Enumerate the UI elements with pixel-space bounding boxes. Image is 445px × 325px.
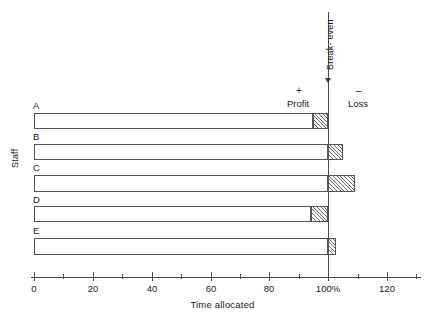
- x-tick-minor-70: [240, 274, 241, 279]
- x-tick-label-40: 40: [132, 284, 172, 294]
- bar-c-clear: [34, 175, 328, 192]
- x-tick-label-100: 100%: [308, 284, 348, 294]
- x-tick-40: [152, 272, 153, 281]
- x-tick-label-80: 80: [249, 284, 289, 294]
- bar-c-hatched: [328, 175, 355, 192]
- y-axis-title: Staff: [10, 149, 20, 168]
- x-tick-label-120: 120: [367, 284, 407, 294]
- x-tick-label-0: 0: [14, 284, 54, 294]
- x-tick-minor-110: [358, 274, 359, 279]
- x-tick-20: [93, 272, 94, 281]
- break-even-arrow-icon: [325, 78, 331, 83]
- x-tick-minor-30: [122, 274, 123, 279]
- x-tick-60: [211, 272, 212, 281]
- x-axis-line: [31, 277, 421, 278]
- x-tick-minor-50: [181, 274, 182, 279]
- bar-d-hatched: [311, 206, 328, 222]
- category-label-e: E: [33, 226, 39, 236]
- bar-b-clear: [34, 144, 328, 160]
- loss-label: Loss: [348, 99, 368, 109]
- profit-label: Profit: [287, 99, 309, 109]
- category-label-d: D: [33, 195, 40, 205]
- x-tick-minor-90: [299, 274, 300, 279]
- profit-sign: +: [296, 86, 302, 96]
- x-axis-title: Time allocated: [0, 299, 445, 310]
- x-tick-minor-10: [63, 274, 64, 279]
- bar-a-hatched: [313, 113, 328, 129]
- x-tick-minor-130: [416, 274, 417, 279]
- x-tick-label-20: 20: [73, 284, 113, 294]
- loss-sign: –: [356, 86, 362, 96]
- bar-b-hatched: [328, 144, 343, 160]
- bar-e-clear: [34, 238, 328, 255]
- category-label-a: A: [33, 101, 39, 111]
- bar-a-clear: [34, 113, 313, 129]
- x-tick-label-60: 60: [191, 284, 231, 294]
- category-label-b: B: [33, 132, 39, 142]
- break-even-label: Break- even: [325, 19, 335, 70]
- x-tick-0: [34, 272, 35, 281]
- x-tick-100: [328, 272, 329, 281]
- x-tick-80: [269, 272, 270, 281]
- bar-d-clear: [34, 206, 311, 222]
- bar-e-hatched: [328, 238, 336, 255]
- category-label-c: C: [33, 163, 40, 173]
- bar-chart: Staff Break- even + Profit – Loss A B C …: [0, 0, 445, 325]
- x-tick-120: [387, 272, 388, 281]
